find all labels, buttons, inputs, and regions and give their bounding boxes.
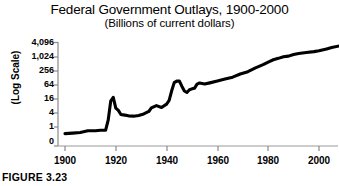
figure-container: Federal Government Outlays, 1900-2000 (B… <box>0 0 339 186</box>
x-tick-label: 1980 <box>248 155 288 166</box>
x-tick-label: 1960 <box>198 155 238 166</box>
x-tick-label: 1940 <box>147 155 187 166</box>
x-tick-label: 1920 <box>96 155 136 166</box>
x-tick-label: 1900 <box>45 155 85 166</box>
x-axis-ticks <box>65 146 319 151</box>
data-series-line <box>65 46 339 134</box>
x-tick-label: 2000 <box>299 155 339 166</box>
figure-caption: FIGURE 3.23 <box>2 171 67 183</box>
